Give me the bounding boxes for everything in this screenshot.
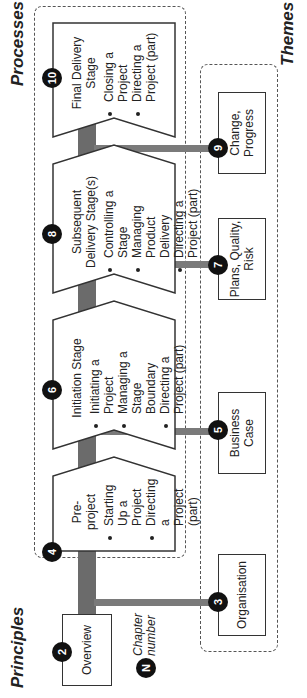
chapter-badge-9: 9 [208, 138, 228, 158]
chapter-badge-5: 5 [208, 420, 228, 440]
process-item: Closing a Project [102, 32, 130, 102]
process-title: Initiation Stage [70, 330, 84, 426]
theme-label: Organisation [235, 561, 249, 629]
theme-label: Change, Progress [228, 93, 256, 173]
process-item: Directing a Project (part) [158, 330, 186, 414]
chapter-badge-3: 3 [208, 592, 228, 612]
theme-label: Business Case [228, 393, 256, 473]
process-pre-project: 4 Pre-project Starting Up a ProjectDirec… [52, 456, 176, 552]
chapter-badge-7: 7 [208, 255, 228, 275]
process-item: Controlling a Stage [102, 174, 130, 258]
process-title: Subsequent Delivery Stage(s) [70, 174, 98, 270]
chapter-legend-icon: N [136, 658, 156, 678]
process-subsequent-delivery: 8 Subsequent Delivery Stage(s) Controlli… [52, 144, 176, 294]
theme-label: Plans, Quality, Risk [228, 219, 256, 299]
process-title: Final Delivery Stage [70, 32, 98, 114]
chapter-badge-4: 4 [42, 542, 62, 562]
theme-box-change-progress: Change, Progress [218, 92, 266, 174]
process-item: Initiating a Project [88, 330, 116, 414]
principle-label: Overview [80, 625, 94, 675]
themes-title: Themes [278, 2, 298, 66]
process-text: Final Delivery Stage Closing a ProjectDi… [70, 32, 158, 114]
chapter-badge-10: 10 [42, 68, 62, 88]
chapter-legend-label: Chapter number [132, 613, 158, 656]
legend-line-2: number [145, 613, 158, 656]
processes-title: Processes [8, 1, 28, 86]
process-text: Pre-project Starting Up a ProjectDirecti… [70, 486, 200, 538]
process-initiation-stage: 6 Initiation Stage Initiating a ProjectM… [52, 300, 176, 450]
process-item: Starting Up a Project [102, 486, 144, 526]
prince2-structure-diagram: Principles Processes Themes Overview 2 N… [0, 0, 307, 698]
process-final-delivery: 10 Final Delivery Stage Closing a Projec… [52, 22, 176, 138]
process-text: Initiation Stage Initiating a ProjectMan… [70, 330, 186, 426]
connector-theme-3 [94, 599, 218, 606]
process-item: Directing a Project (part) [130, 32, 158, 102]
chapter-badge-6: 6 [42, 380, 62, 400]
process-item: Managing Product Delivery [130, 174, 172, 258]
process-item: Directing a Project (part) [172, 174, 200, 258]
principles-title: Principles [8, 607, 28, 688]
process-title: Pre-project [70, 486, 98, 538]
chapter-badge-2: 2 [52, 642, 72, 662]
process-text: Subsequent Delivery Stage(s) Controlling… [70, 174, 200, 270]
process-item: Directing a Project (part) [144, 486, 200, 526]
process-item: Managing a Stage Boundary [116, 330, 158, 414]
chapter-badge-8: 8 [42, 224, 62, 244]
